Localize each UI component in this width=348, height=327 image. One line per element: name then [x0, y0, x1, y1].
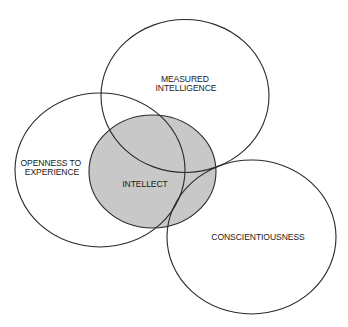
intellect-label-line1: INTELLECT — [122, 179, 168, 189]
venn-diagram: MEASURED INTELLIGENCE OPENNESS TO EXPERI… — [0, 0, 348, 327]
measured-intelligence-label: MEASURED INTELLIGENCE — [156, 74, 217, 93]
openness-label-line2: EXPERIENCE — [25, 167, 80, 177]
conscientiousness-label-line1: CONSCIENTIOUSNESS — [211, 232, 305, 242]
openness-label: OPENNESS TO EXPERIENCE — [21, 158, 84, 177]
measured-intelligence-label-line2: INTELLIGENCE — [156, 83, 217, 93]
intellect-label: INTELLECT — [122, 179, 168, 189]
conscientiousness-label: CONSCIENTIOUSNESS — [211, 232, 305, 242]
